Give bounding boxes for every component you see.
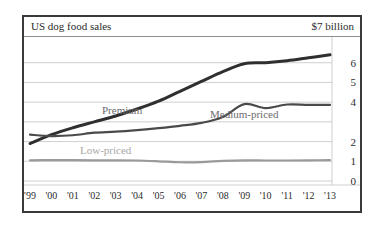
series-label-medium: Medium-priced [210, 109, 278, 120]
y-axis-tick-label: 5 [351, 77, 357, 88]
chart-title: US dog food sales [31, 21, 111, 32]
x-axis-tick-label: '12 [303, 191, 315, 201]
series-lines [30, 55, 330, 162]
x-axis-tick-label: '07 [196, 191, 208, 201]
y-axis-tick-label: 2 [351, 136, 357, 147]
x-axis-tick-label: '04 [131, 191, 143, 201]
y-axis-tick-label: 1 [351, 156, 357, 167]
x-axis-tick-label: '08 [217, 191, 229, 201]
x-axis-tick-label: '11 [281, 191, 292, 201]
chart-header: US dog food sales $7 billion [24, 17, 360, 37]
x-axis-tick-label: '10 [260, 191, 272, 201]
x-axis-tick-label: '00 [46, 191, 58, 201]
x-axis-tick-label: '13 [324, 191, 336, 201]
x-axis-tick-label: '06 [174, 191, 186, 201]
series-line [30, 160, 330, 162]
x-axis-tick-label: '01 [67, 191, 79, 201]
chart-canvas [24, 37, 360, 211]
x-axis-tick-label: '09 [238, 191, 250, 201]
series-line [30, 104, 330, 136]
chart-figure: US dog food sales $7 billion 012456'99'0… [22, 15, 362, 213]
x-axis-tick-label: '99 [24, 191, 36, 201]
y-axis-tick-label: 6 [351, 57, 357, 68]
x-axis-tick-label: '02 [88, 191, 100, 201]
chart-unit-note: $7 billion [312, 21, 354, 32]
x-axis-tick-label: '05 [153, 191, 165, 201]
x-axis-tick-label: '03 [110, 191, 122, 201]
plot-area: 012456'99'00'01'02'03'04'05'06'07'08'09'… [24, 37, 360, 211]
y-axis-tick-label: 4 [351, 97, 357, 108]
series-label-premium: Premium [102, 105, 142, 116]
series-label-low: Low-priced [80, 145, 131, 156]
y-axis-tick-label: 0 [351, 176, 357, 187]
series-line [30, 55, 330, 144]
